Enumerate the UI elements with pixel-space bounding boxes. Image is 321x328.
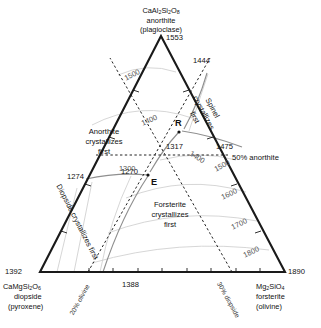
right-corner-mineral: forsterite (256, 292, 285, 301)
label-50-percent-anorthite: 50% anorthite (232, 153, 279, 162)
label-20-percent-olivine: 20% olivine (68, 283, 91, 316)
isotherm-label-1600: 1600 (220, 186, 239, 201)
top-corner-mineral: anorthite (147, 16, 176, 25)
tick-left-3 (85, 184, 91, 186)
isotherm-label-1400-upper: 1400 (140, 113, 159, 128)
temperature-left-apex: 1392 (5, 267, 22, 276)
point-E-marker (146, 173, 149, 176)
field-anorthite-line2: crystallizes (85, 137, 122, 146)
temperature-1388: 1388 (122, 280, 139, 289)
isotherm-label-1300: 1300 (119, 164, 135, 173)
ternary-phase-diagram: CaAl2Si2O8 anorthite (plagioclase) 1553 … (0, 0, 321, 328)
right-corner-group: (olivine) (256, 302, 282, 311)
left-corner-group: (pyroxene) (8, 302, 43, 311)
point-E-label: E (151, 177, 157, 187)
isotherm-label-1700: 1700 (230, 216, 249, 231)
label-30-percent-diopside: 30% diopside (215, 281, 241, 320)
tick-right-4 (255, 231, 261, 233)
tick-right-1 (183, 90, 189, 92)
temperature-1444: 1444 (193, 56, 210, 65)
temperature-R-1317: 1317 (166, 142, 183, 151)
cotectic-diopside-forsterite (103, 176, 148, 272)
isotherm-label-1400-mid: 1400 (188, 149, 207, 166)
isotherm-label-1500-right: 1500 (213, 158, 232, 174)
temperature-top-apex: 1553 (166, 33, 183, 42)
composition-lines (88, 58, 232, 272)
point-R-label: R (175, 118, 182, 128)
temperature-1475: 1475 (216, 142, 233, 151)
isotherm-diopside-c (100, 176, 131, 272)
top-corner-formula: CaAl2Si2O8 (142, 6, 179, 15)
field-forsterite-line2: crystallizes (151, 210, 188, 219)
temperature-right-apex: 1890 (288, 267, 305, 276)
field-anorthite-line3: first (98, 147, 111, 156)
left-corner-mineral: diopside (14, 292, 42, 301)
cotectic-anorthite-diopside (86, 174, 148, 179)
field-forsterite-line1: Forsterite (154, 200, 186, 209)
right-corner-formula: Mg2SiO4 (256, 282, 285, 291)
cotectic-R-to-E (150, 133, 178, 172)
field-diopside-label: Diopside crystallizes first (55, 183, 101, 262)
field-forsterite-line3: first (164, 220, 177, 229)
line-20-percent-olivine (88, 58, 210, 272)
left-corner-formula: CaMgSi2O6 (3, 282, 41, 291)
point-R-marker (177, 130, 180, 133)
temperature-1274: 1274 (67, 172, 84, 181)
field-anorthite-line1: Anorthite (89, 127, 119, 136)
diagram-canvas: CaAl2Si2O8 anorthite (plagioclase) 1553 … (0, 0, 321, 328)
isotherm-label-1800: 1800 (242, 244, 261, 259)
